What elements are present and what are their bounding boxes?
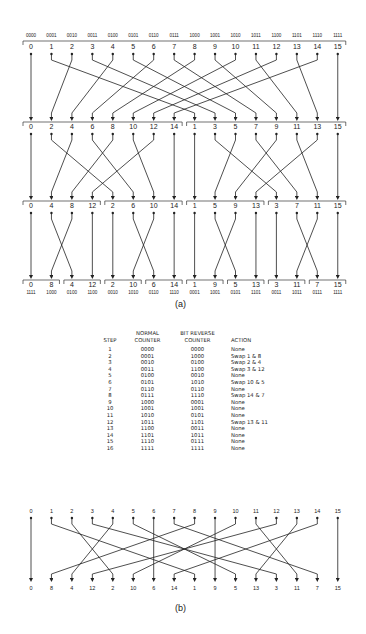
stage1-label: 13	[313, 123, 321, 130]
cell-action: Swap 1 & 8	[225, 353, 285, 360]
cell-step: 10	[95, 405, 125, 412]
table-row: 1611111111None	[95, 445, 285, 452]
stage1-label: 10	[129, 123, 137, 130]
cell-normal: 1000	[125, 399, 170, 406]
cell-reverse: 0011	[170, 425, 225, 432]
stage2-label: 10	[150, 202, 158, 209]
stage1-label: 5	[234, 123, 238, 130]
cell-reverse: 1001	[170, 405, 225, 412]
cell-action: Swap 3 & 12	[225, 366, 285, 373]
wire-start-dot	[50, 517, 52, 519]
table-row: 1110100101None	[95, 412, 285, 419]
stage3-wire	[133, 213, 153, 277]
stage0-label: 5	[131, 43, 135, 50]
wire-start-dot	[275, 517, 277, 519]
cell-action: None	[225, 432, 285, 439]
stage0-label: 8	[193, 43, 197, 50]
cell-step: 11	[95, 412, 125, 419]
stage1-label: 9	[274, 123, 278, 130]
wire-start-dot	[337, 517, 339, 519]
table-row: 200011000Swap 1 & 8	[95, 353, 285, 360]
cell-action: Swap 13 & 11	[225, 419, 285, 426]
stage1-label: 6	[90, 123, 94, 130]
stage3-label: 9	[213, 281, 217, 288]
b-wire	[256, 518, 297, 580]
stage1-label: 7	[254, 123, 258, 130]
cell-reverse: 1100	[170, 366, 225, 373]
b-bottom-label: 6	[152, 585, 155, 591]
wire-start-dot	[71, 133, 73, 135]
table-row: 910000001None	[95, 399, 285, 406]
wire-start-dot	[91, 133, 93, 135]
stage3-label: 8	[49, 281, 53, 288]
stage2-label: 15	[334, 202, 342, 209]
cell-step: 15	[95, 438, 125, 445]
wire-start-dot	[71, 212, 73, 214]
top-binary-label: 1010	[230, 33, 241, 38]
stage0-label: 2	[70, 43, 74, 50]
cell-action: None	[225, 438, 285, 445]
stage0-label: 14	[313, 43, 321, 50]
table-row: 100000000None	[95, 346, 285, 353]
stage2-wire	[51, 134, 71, 198]
b-bottom-label: 13	[253, 585, 259, 591]
stage3-label: 14	[170, 281, 178, 288]
top-binary-label: 1001	[210, 33, 221, 38]
stage1-wire	[174, 54, 317, 119]
wire-start-dot	[316, 53, 318, 55]
bottom-binary-label: 1111	[26, 290, 36, 295]
stage2-wire	[133, 134, 153, 198]
stage3-label: 11	[293, 281, 300, 288]
b-top-label: 14	[314, 508, 320, 514]
cell-step: 13	[95, 425, 125, 432]
cell-reverse: 0001	[170, 399, 225, 406]
figure-b: 0123456789101112131415084122106141951331…	[29, 508, 340, 591]
table-row: 1511100111None	[95, 438, 285, 445]
stage0-label: 6	[152, 43, 156, 50]
wire-start-dot	[132, 212, 134, 214]
stage2-wire	[51, 134, 112, 198]
cell-step: 4	[95, 366, 125, 373]
stage1-wire	[154, 54, 277, 119]
stage1-label: 11	[293, 123, 300, 130]
b-top-label: 6	[152, 508, 155, 514]
stage3-label: 15	[334, 281, 342, 288]
wire-start-dot	[30, 133, 32, 135]
wire-start-dot	[296, 212, 298, 214]
cell-reverse: 0101	[170, 412, 225, 419]
wire-start-dot	[112, 517, 114, 519]
stage2-wire	[236, 134, 277, 198]
cell-normal: 1001	[125, 405, 170, 412]
bottom-binary-label: 1011	[292, 290, 302, 295]
cell-normal: 1111	[125, 445, 170, 452]
wire-start-dot	[112, 53, 114, 55]
b-wire	[51, 518, 194, 580]
wire-start-dot	[132, 517, 134, 519]
cell-step: 14	[95, 432, 125, 439]
stage2-label: 7	[295, 202, 299, 209]
cell-reverse: 1101	[170, 419, 225, 426]
stage2-wire	[92, 134, 153, 198]
wire-start-dot	[193, 133, 195, 135]
stage3-wire	[51, 213, 71, 277]
top-binary-label: 1101	[292, 33, 302, 38]
b-top-label: 12	[273, 508, 279, 514]
stage2-label: 9	[234, 202, 238, 209]
stage2-label: 12	[88, 202, 96, 209]
wire-start-dot	[234, 517, 236, 519]
stage2-wire	[256, 134, 297, 198]
bottom-binary-label: 1111	[333, 290, 343, 295]
stage2-label: 1	[193, 202, 197, 209]
wire-start-dot	[316, 212, 318, 214]
bottom-binary-label: 0110	[149, 290, 159, 295]
wire-start-dot	[132, 133, 134, 135]
wire-start-dot	[214, 133, 216, 135]
stage3-label: 3	[274, 281, 278, 288]
wire-start-dot	[71, 53, 73, 55]
wire-start-dot	[214, 212, 216, 214]
table-row: 1210111101Swap 13 & 11	[95, 419, 285, 426]
stage0-label: 13	[293, 43, 301, 50]
stage3-label: 10	[129, 281, 137, 288]
cell-reverse: 0110	[170, 386, 225, 393]
wire-start-dot	[255, 53, 257, 55]
